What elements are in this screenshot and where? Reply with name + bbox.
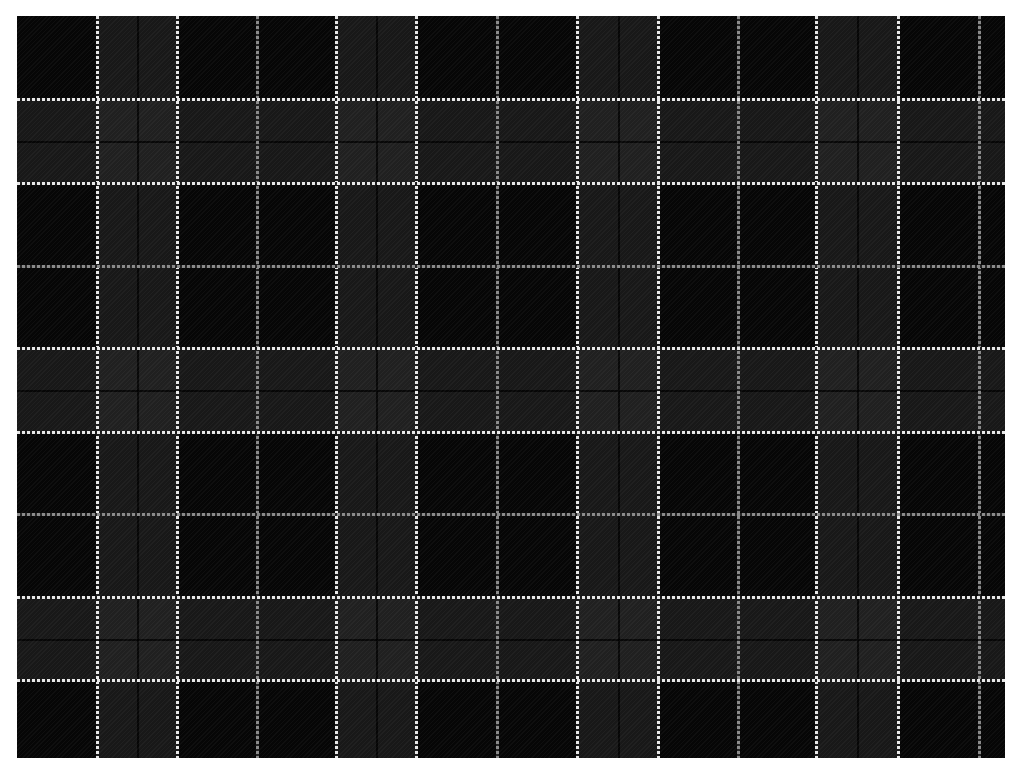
horizontal-band-center-line xyxy=(17,390,1005,392)
plaid-fabric xyxy=(17,16,1005,758)
white-horizontal-stripe xyxy=(17,347,1005,350)
white-vertical-stripe xyxy=(176,16,179,758)
white-vertical-stripe xyxy=(815,16,818,758)
white-vertical-stripe xyxy=(897,16,900,758)
white-vertical-stripe xyxy=(576,16,579,758)
gray-horizontal-stripe xyxy=(17,513,1005,516)
white-vertical-stripe xyxy=(657,16,660,758)
horizontal-band-center-line xyxy=(17,639,1005,641)
gray-vertical-stripe xyxy=(737,16,740,758)
vertical-band-center-line xyxy=(376,16,378,758)
white-vertical-stripe xyxy=(96,16,99,758)
vertical-band-center-line xyxy=(857,16,859,758)
white-horizontal-stripe xyxy=(17,182,1005,185)
image-canvas: Black and gray tartan plaid fabric patte… xyxy=(0,0,1026,776)
white-vertical-stripe xyxy=(335,16,338,758)
vertical-band-center-line xyxy=(618,16,620,758)
gray-vertical-stripe xyxy=(978,16,981,758)
horizontal-band-center-line xyxy=(17,141,1005,143)
gray-vertical-stripe xyxy=(256,16,259,758)
white-horizontal-stripe xyxy=(17,596,1005,599)
gray-horizontal-stripe xyxy=(17,265,1005,268)
vertical-band-center-line xyxy=(137,16,139,758)
white-horizontal-stripe xyxy=(17,431,1005,434)
image-description: Black and gray tartan plaid fabric patte… xyxy=(0,0,1,1)
white-horizontal-stripe xyxy=(17,679,1005,682)
white-vertical-stripe xyxy=(415,16,418,758)
white-horizontal-stripe xyxy=(17,98,1005,101)
gray-vertical-stripe xyxy=(496,16,499,758)
